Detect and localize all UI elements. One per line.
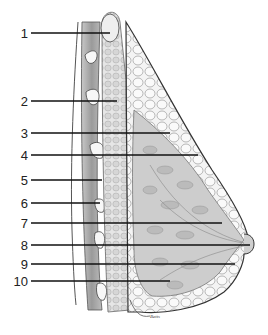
label-7: 7 — [4, 217, 28, 230]
label-10: 10 — [4, 275, 28, 288]
label-8: 8 — [4, 239, 28, 252]
label-5: 5 — [4, 174, 28, 187]
label-2: 2 — [4, 95, 28, 108]
nipple — [244, 234, 254, 254]
chest-wall-skin — [71, 22, 78, 305]
breast-anatomy-diagram: Betts — [0, 0, 268, 335]
label-1: 1 — [4, 27, 28, 40]
label-9: 9 — [4, 258, 28, 271]
pectoral-muscle — [81, 22, 102, 310]
label-3: 3 — [4, 127, 28, 140]
label-4: 4 — [4, 149, 28, 162]
top-rib-section — [101, 14, 119, 42]
label-6: 6 — [4, 197, 28, 210]
artist-signature: Betts — [150, 314, 160, 319]
